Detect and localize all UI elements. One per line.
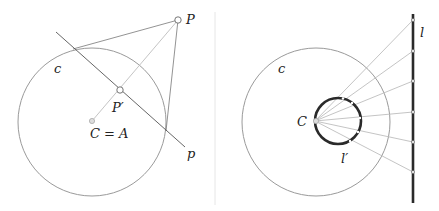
label-center-c: C xyxy=(297,114,307,129)
point-p xyxy=(175,17,181,23)
tangent-line-upper xyxy=(73,20,178,49)
label-l-prime: l′ xyxy=(341,151,348,166)
point-center-c-right xyxy=(313,118,318,123)
left-figure: P P′ C = A c p xyxy=(18,12,196,196)
tangent-line-lower xyxy=(166,20,178,131)
right-figure: C c l l′ xyxy=(242,14,424,203)
point-p-prime xyxy=(117,87,123,93)
label-p-prime: P′ xyxy=(111,100,124,115)
image-points xyxy=(342,97,361,142)
label-p: P xyxy=(185,12,195,27)
label-polar-p: p xyxy=(187,146,196,161)
label-circle-c-right: c xyxy=(278,61,286,76)
rays-to-line xyxy=(315,20,413,172)
label-line-l: l xyxy=(420,25,424,40)
inversion-diagram: P P′ C = A c p xyxy=(0,0,439,211)
label-c-equals-a: C = A xyxy=(90,126,129,141)
ray-c-to-p xyxy=(92,20,178,121)
point-center-c xyxy=(89,118,94,123)
label-circle-c-left: c xyxy=(54,61,62,76)
